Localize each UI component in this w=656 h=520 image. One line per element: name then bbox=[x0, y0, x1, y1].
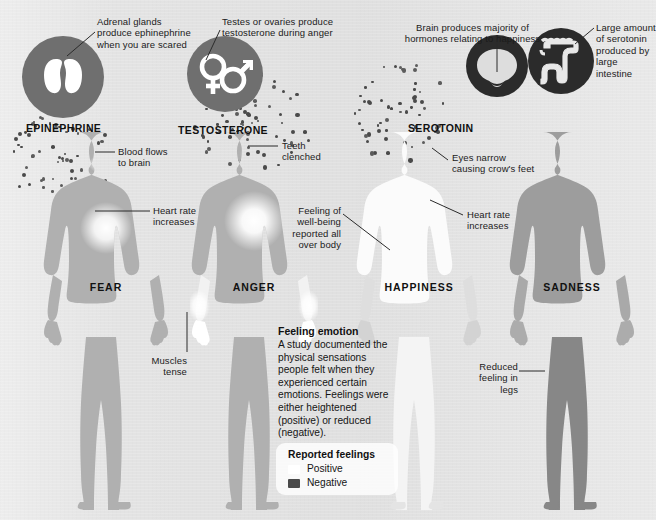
annotation-well-being: Feeling of well-being reported all over … bbox=[289, 205, 341, 251]
emotion-label-fear: FEAR bbox=[66, 281, 146, 293]
hormone-label-testosterone: TESTOSTERONE bbox=[178, 124, 268, 136]
info-body: A study documented the physical sensatio… bbox=[278, 339, 396, 440]
annotation-muscles-tense: Muscles tense bbox=[143, 355, 187, 378]
hormone-label-serotonin: SEROTONIN bbox=[408, 122, 474, 134]
annotation-blood-flows-to-brain: Blood flows to brain bbox=[118, 146, 188, 169]
emotion-label-anger: ANGER bbox=[214, 281, 294, 293]
legend-swatch-positive bbox=[288, 465, 300, 474]
info-block: Feeling emotion A study documented the p… bbox=[278, 325, 396, 440]
annotation-heart-rate-happiness: Heart rate increases bbox=[467, 209, 537, 232]
info-title: Feeling emotion bbox=[278, 325, 396, 338]
leader-lines bbox=[0, 0, 656, 520]
annotation-eyes-narrow: Eyes narrow causing crow's feet bbox=[452, 152, 544, 175]
hormone-label-epinephrine: EPINEPHRINE bbox=[26, 122, 101, 134]
emotion-label-happiness: HAPPINESS bbox=[374, 281, 464, 293]
annotation-heart-rate-fear: Heart rate increases bbox=[153, 205, 223, 228]
legend-swatch-negative bbox=[288, 479, 300, 488]
emotion-label-sadness: SADNESS bbox=[532, 281, 612, 293]
legend-label-positive: Positive bbox=[307, 463, 343, 474]
annotation-reduced-legs: Reduced feeling in legs bbox=[472, 361, 518, 395]
annotation-teeth-clenched: Teeth clenched bbox=[282, 140, 342, 163]
legend-label-negative: Negative bbox=[307, 477, 347, 488]
legend: Reported feelings Positive Negative bbox=[276, 443, 398, 495]
infographic-canvas: Adrenal glands produce ephinephrine when… bbox=[0, 0, 656, 520]
legend-title: Reported feelings bbox=[288, 449, 375, 460]
